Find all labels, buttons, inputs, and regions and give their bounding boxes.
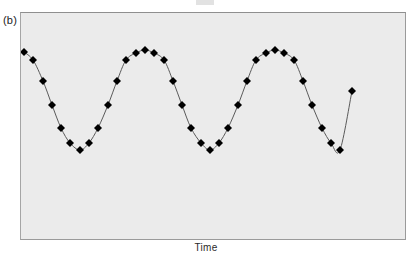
data-point-marker xyxy=(94,124,102,132)
data-point-marker xyxy=(318,124,326,132)
sine-wave-plot xyxy=(21,13,405,239)
panel-label: (b) xyxy=(3,14,17,27)
scan-artifact xyxy=(196,0,214,5)
data-point-marker xyxy=(141,46,149,54)
data-point-marker xyxy=(150,49,158,57)
data-point-marker xyxy=(308,101,316,109)
data-point-marker xyxy=(132,49,140,57)
data-point-marker xyxy=(169,77,177,85)
figure-panel-b: (b) Time xyxy=(0,0,412,255)
marker-group xyxy=(21,46,356,154)
data-point-marker xyxy=(262,49,270,57)
data-point-marker xyxy=(243,77,251,85)
xaxis-label: Time xyxy=(0,242,412,253)
data-point-marker xyxy=(206,146,214,154)
data-point-marker xyxy=(48,101,56,109)
data-point-marker xyxy=(39,77,47,85)
signal-line xyxy=(24,50,352,153)
data-point-marker xyxy=(280,49,288,57)
data-point-marker xyxy=(57,124,65,132)
data-point-marker xyxy=(178,101,186,109)
data-point-marker xyxy=(234,101,242,109)
data-point-marker xyxy=(299,77,307,85)
data-point-marker xyxy=(104,101,112,109)
data-point-marker xyxy=(271,46,279,54)
curve-group xyxy=(24,50,352,153)
data-point-marker xyxy=(224,124,232,132)
data-point-marker xyxy=(348,87,356,95)
data-point-marker xyxy=(187,124,195,132)
data-point-marker xyxy=(21,48,28,56)
data-point-marker xyxy=(113,77,121,85)
plot-area xyxy=(20,12,406,240)
data-point-marker xyxy=(76,146,84,154)
data-point-marker xyxy=(327,139,335,147)
